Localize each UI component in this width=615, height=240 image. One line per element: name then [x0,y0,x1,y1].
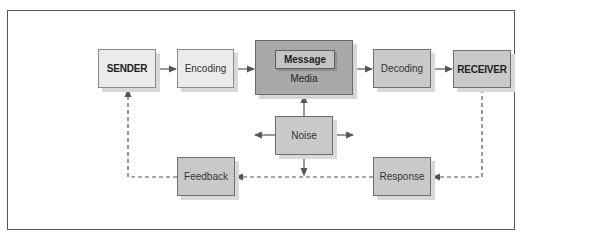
encoding-label: Encoding [185,63,227,74]
receiver-label: RECEIVER [457,64,507,75]
sender-label: SENDER [107,63,147,74]
receiver-node: RECEIVER [453,50,511,88]
decoding-label: Decoding [381,63,423,74]
feedback-node: Feedback [177,157,235,196]
feedback-label: Feedback [184,171,228,182]
decoding-node: Decoding [373,49,431,88]
response-node: Response [373,157,431,196]
response-label: Response [379,171,424,182]
noise-label: Noise [291,130,317,141]
message-node: Message [275,50,335,69]
media-label: Media [256,73,352,84]
noise-node: Noise [275,116,333,155]
encoding-node: Encoding [177,49,234,88]
media-node: Message Media [255,40,353,95]
sender-node: SENDER [98,49,156,88]
message-label: Message [284,54,326,65]
